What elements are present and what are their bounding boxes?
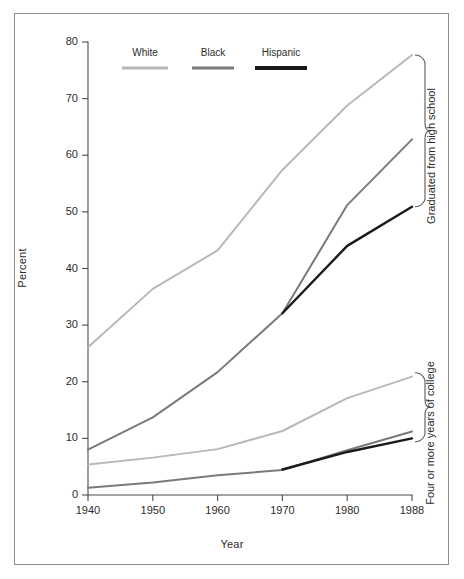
axis-group: [82, 42, 413, 502]
y-tick-label: 10: [54, 431, 78, 443]
y-tick-label: 60: [54, 148, 78, 160]
x-tick-label: 1970: [262, 504, 302, 516]
series-line-black-highschool: [88, 139, 412, 449]
series-group: [88, 55, 412, 488]
series-line-white-college: [88, 377, 412, 465]
y-tick-label: 20: [54, 375, 78, 387]
y-tick-label: 80: [54, 35, 78, 47]
annotation-college: Four or more years of college: [424, 338, 436, 528]
series-line-white-highschool: [88, 55, 412, 347]
y-tick-label: 30: [54, 318, 78, 330]
y-tick-label: 40: [54, 262, 78, 274]
series-line-hispanic-college: [282, 438, 412, 469]
x-tick-label: 1980: [327, 504, 367, 516]
legend-label-black: Black: [178, 47, 248, 58]
annotation-high-school: Graduated from high school: [425, 71, 437, 241]
x-axis-title: Year: [220, 538, 243, 550]
series-line-hispanic-highschool: [282, 207, 412, 313]
chart-figure: Percent Year 01020304050607080 194019501…: [0, 0, 464, 579]
y-tick-label: 70: [54, 92, 78, 104]
legend-label-white: White: [110, 47, 180, 58]
x-tick-label: 1960: [198, 504, 238, 516]
legend-label-hispanic: Hispanic: [246, 47, 316, 58]
y-tick-label: 50: [54, 205, 78, 217]
y-tick-label: 0: [54, 488, 78, 500]
y-axis-title: Percent: [16, 238, 28, 298]
x-tick-label: 1950: [133, 504, 173, 516]
x-tick-label: 1940: [68, 504, 108, 516]
